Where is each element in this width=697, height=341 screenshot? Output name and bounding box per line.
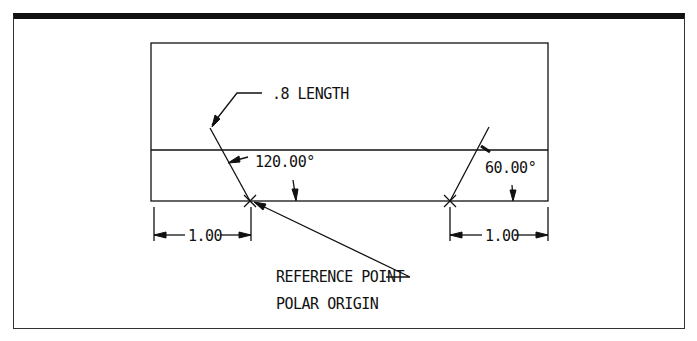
angle-120-arrow — [292, 180, 298, 201]
angle-120-leader — [228, 156, 248, 163]
angle-120-label: 120.00° — [255, 153, 315, 171]
polar-origin-label: POLAR ORIGIN — [276, 295, 379, 313]
reference-point-leader — [254, 202, 410, 277]
reference-point-label: REFERENCE POINT — [276, 268, 404, 286]
polar-line-60 — [450, 127, 489, 201]
part-outline — [151, 43, 548, 201]
drawing-canvas: .8 LENGTH 120.00° 60.00° 1.00 — [0, 0, 697, 341]
dimension-left-label: 1.00 — [188, 227, 223, 245]
angle-60-arrow — [510, 185, 516, 201]
polar-line-120 — [210, 128, 250, 201]
dimension-right-label: 1.00 — [485, 227, 520, 245]
angle-60-leader — [481, 146, 490, 152]
length-label: .8 LENGTH — [272, 85, 349, 103]
length-leader — [212, 93, 262, 127]
angle-60-label: 60.00° — [485, 159, 536, 177]
